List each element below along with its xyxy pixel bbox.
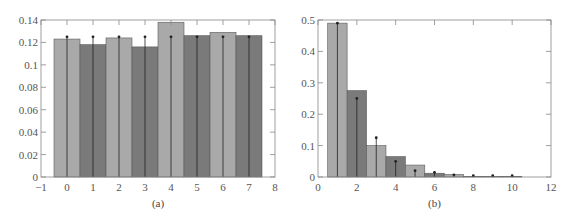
x-tick-label: 8 <box>272 181 278 193</box>
y-tick-label: 0.2 <box>301 108 315 120</box>
pmf-stem-marker <box>66 35 69 38</box>
chart-panel-b: 00.10.20.30.40.5024681012(b) <box>301 14 556 210</box>
y-tick-label: 0.3 <box>301 77 315 89</box>
x-tick-label: 4 <box>168 181 174 193</box>
pmf-stem-marker <box>433 171 436 174</box>
y-tick-label: 0.1 <box>24 59 38 71</box>
x-tick-label: 0 <box>64 181 70 193</box>
pmf-stem-marker <box>170 35 173 38</box>
y-tick-label: 0.14 <box>19 14 39 26</box>
pmf-stem-marker <box>248 35 251 38</box>
x-tick-label: −1 <box>35 181 47 193</box>
y-tick-label: 0.02 <box>19 149 38 161</box>
x-tick-label: 12 <box>546 181 557 193</box>
x-tick-label: 6 <box>432 181 438 193</box>
x-tick-label: 3 <box>142 181 148 193</box>
x-tick-label: 1 <box>90 181 96 193</box>
y-tick-label: 0.1 <box>301 140 315 152</box>
x-tick-label: 6 <box>220 181 226 193</box>
y-tick-label: 0.5 <box>301 14 315 26</box>
pmf-stem-marker <box>414 169 417 172</box>
pmf-stem-marker <box>196 35 199 38</box>
panel-caption: (b) <box>428 197 441 210</box>
pmf-stem-marker <box>453 173 456 176</box>
x-tick-label: 4 <box>393 181 399 193</box>
pmf-stem-marker <box>375 136 378 139</box>
x-tick-label: 0 <box>315 181 321 193</box>
pmf-stem-marker <box>118 35 121 38</box>
figure: 00.020.040.060.080.10.120.14−1012345678(… <box>0 0 570 218</box>
y-tick-label: 0.4 <box>301 45 315 57</box>
y-tick-label: 0.08 <box>19 81 39 93</box>
x-tick-label: 2 <box>354 181 360 193</box>
pmf-stem-marker <box>92 35 95 38</box>
pmf-stem-marker <box>222 35 225 38</box>
x-tick-label: 10 <box>507 181 519 193</box>
pmf-stem-marker <box>144 35 147 38</box>
pmf-stem-marker <box>355 97 358 100</box>
chart-panel-a: 00.020.040.060.080.10.120.14−1012345678(… <box>19 14 279 210</box>
x-tick-label: 5 <box>194 181 200 193</box>
pmf-stem-marker <box>336 22 339 25</box>
pmf-stem-marker <box>394 160 397 163</box>
y-tick-label: 0.12 <box>19 36 38 48</box>
panel-caption: (a) <box>152 197 165 210</box>
x-tick-label: 2 <box>116 181 122 193</box>
y-tick-label: 0.06 <box>19 104 39 116</box>
y-tick-label: 0.04 <box>19 126 39 138</box>
x-tick-label: 8 <box>471 181 477 193</box>
x-tick-label: 7 <box>246 181 252 193</box>
